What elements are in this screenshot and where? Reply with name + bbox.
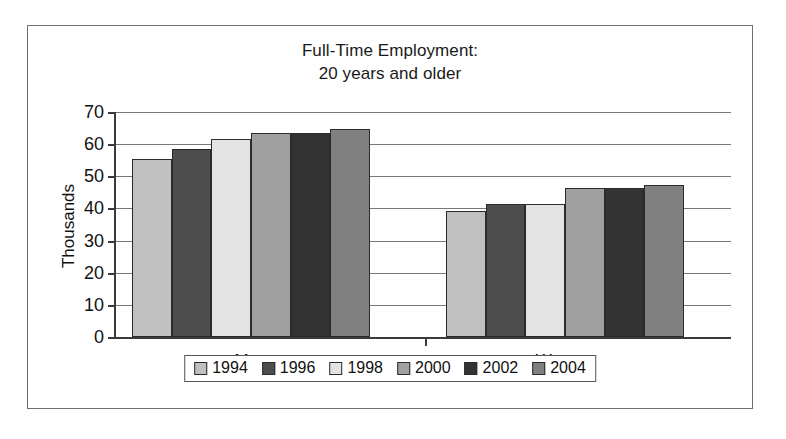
category-separator-tick — [425, 337, 427, 346]
y-axis-tick-label: 70 — [84, 102, 104, 123]
bar-men-2000[interactable] — [251, 133, 291, 337]
legend-label-1998: 1998 — [347, 360, 383, 376]
legend-label-2000: 2000 — [415, 360, 451, 376]
y-axis-tick-mark — [108, 273, 116, 275]
y-axis-title: Thousands — [56, 112, 82, 339]
y-axis-tick-label: 60 — [84, 134, 104, 155]
bar-women-1998[interactable] — [525, 204, 565, 337]
legend-item-1998[interactable]: 1998 — [329, 360, 383, 376]
y-axis-title-label: Thousands — [59, 183, 79, 267]
bar-men-2002[interactable] — [291, 133, 331, 337]
legend-swatch-1998 — [329, 362, 342, 375]
bar-men-1998[interactable] — [211, 139, 251, 337]
y-axis-tick-label: 40 — [84, 198, 104, 219]
y-axis-tick-label: 50 — [84, 166, 104, 187]
legend-swatch-2000 — [397, 362, 410, 375]
legend-item-1996[interactable]: 1996 — [262, 360, 316, 376]
legend-item-2000[interactable]: 2000 — [397, 360, 451, 376]
legend-swatch-2004 — [532, 362, 545, 375]
y-axis-tick-mark — [108, 337, 116, 339]
legend-item-2002[interactable]: 2002 — [465, 360, 519, 376]
y-axis-tick-mark — [108, 144, 116, 146]
y-axis-tick-label: 20 — [84, 262, 104, 283]
y-axis-tick-label: 30 — [84, 230, 104, 251]
legend-label-1996: 1996 — [280, 360, 316, 376]
bar-group-women — [446, 112, 684, 337]
y-axis-tick-mark — [108, 305, 116, 307]
chart-legend: 199419961998200020022004 — [184, 355, 596, 382]
bar-women-1996[interactable] — [486, 204, 526, 337]
bar-men-1996[interactable] — [172, 149, 212, 337]
plot-wrapper: 706050403020100 MenWomen — [114, 112, 731, 339]
y-axis-tick-mark — [108, 112, 116, 114]
legend-swatch-1994 — [194, 362, 207, 375]
chart-title-line-1: Full-Time Employment: — [28, 40, 752, 63]
legend-item-2004[interactable]: 2004 — [532, 360, 586, 376]
chart-figure-frame: Full-Time Employment: 20 years and older… — [27, 25, 753, 409]
y-axis-tick-mark — [108, 208, 116, 210]
chart-title-line-2: 20 years and older — [28, 63, 752, 86]
legend-label-2004: 2004 — [550, 360, 586, 376]
y-axis-tick-mark — [108, 241, 116, 243]
legend-label-2002: 2002 — [483, 360, 519, 376]
y-axis-tick-label: 0 — [94, 327, 104, 348]
bar-group-men — [132, 112, 370, 337]
plot-area: 706050403020100 MenWomen — [114, 112, 731, 339]
bar-men-1994[interactable] — [132, 159, 172, 337]
bar-women-2004[interactable] — [644, 185, 684, 337]
legend-swatch-1996 — [262, 362, 275, 375]
y-axis-tick-mark — [108, 176, 116, 178]
bar-women-2000[interactable] — [565, 188, 605, 337]
legend-label-1994: 1994 — [212, 360, 248, 376]
chart-title: Full-Time Employment: 20 years and older — [28, 40, 752, 85]
bar-men-2004[interactable] — [330, 129, 370, 337]
y-axis-tick-label: 10 — [84, 294, 104, 315]
bar-women-1994[interactable] — [446, 211, 486, 337]
legend-swatch-2002 — [465, 362, 478, 375]
legend-item-1994[interactable]: 1994 — [194, 360, 248, 376]
bar-women-2002[interactable] — [605, 188, 645, 337]
